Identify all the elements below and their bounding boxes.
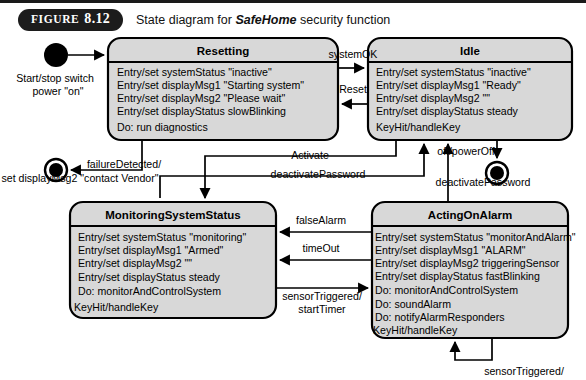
- state-acting-on-alarm-line-2: Entry/set displayMsg2 triggeringSensor: [375, 257, 560, 269]
- label-resetting-to-failure-final-0: failureDetected/: [87, 158, 161, 170]
- label-start-to-resetting-1: power "on": [32, 85, 83, 97]
- label-start-to-resetting-0: Start/stop switch: [16, 72, 94, 84]
- state-acting-on-alarm-title: ActingOnAlarm: [428, 209, 512, 221]
- state-resetting[interactable]: Resetting Entry/set systemStatus "inacti…: [108, 38, 338, 140]
- state-acting-on-alarm[interactable]: ActingOnAlarm Entry/set systemStatus "mo…: [372, 202, 576, 338]
- label-acting-self-loop: sensorTriggered/: [484, 365, 564, 377]
- state-resetting-line-3: Entry/set displayStatus slowBlinking: [117, 105, 286, 117]
- state-idle[interactable]: Idle Entry/set systemStatus "inactive" E…: [368, 38, 572, 140]
- state-acting-on-alarm-line-4: Do: monitorAndControlSystem: [375, 284, 518, 296]
- label-acting-to-monitoring-false-alarm: falseAlarm: [296, 214, 346, 226]
- state-resetting-line-1: Entry/set displayMsg1 "Starting system": [117, 79, 304, 91]
- state-resetting-title: Resetting: [197, 45, 249, 57]
- state-idle-line-4: KeyHit/handleKey: [376, 121, 461, 133]
- state-monitoring-system-status-line-5: KeyHit/handleKey: [74, 301, 159, 313]
- label-acting-to-monitoring-timeout: timeOut: [302, 242, 339, 254]
- state-monitoring-system-status-line-3: Entry/set displayStatus steady: [78, 271, 221, 283]
- state-monitoring-system-status-title: MonitoringSystemStatus: [105, 209, 240, 221]
- state-resetting-line-0: Entry/set systemStatus "inactive": [117, 66, 272, 78]
- state-monitoring-system-status-line-2: Entry/set displayMsg2 "": [78, 257, 192, 269]
- state-acting-on-alarm-line-1: Entry/set displayMsg1 "ALARM": [375, 244, 526, 256]
- figure-container: FIGURE 8.12 State diagram for SafeHome s…: [0, 0, 586, 380]
- state-acting-on-alarm-line-3: Entry/set displayStatus fastBlinking: [375, 270, 540, 282]
- state-acting-on-alarm-line-6: Do: notifyAlarmResponders: [375, 311, 505, 323]
- label-monitoring-to-acting-1: startTimer: [298, 303, 346, 315]
- state-resetting-line-2: Entry/set displayMsg2 "Please wait": [117, 92, 286, 104]
- state-monitoring-system-status[interactable]: MonitoringSystemStatus Entry/set systemS…: [70, 202, 276, 318]
- state-diagram: Resetting Entry/set systemStatus "inacti…: [0, 0, 586, 380]
- state-acting-on-alarm-line-0: Entry/set systemStatus "monitorAndAlarm": [375, 231, 576, 243]
- state-monitoring-system-status-line-1: Entry/set displayMsg1 "Armed": [78, 244, 224, 256]
- label-resetting-to-idle: systemOK: [329, 48, 378, 60]
- start-node-icon: [44, 43, 68, 67]
- state-acting-on-alarm-line-7: KeyHit/handleKey: [373, 324, 458, 336]
- label-monitoring-to-acting-0: sensorTriggered/: [282, 290, 362, 302]
- state-idle-line-2: Entry/set displayMsg2 "": [376, 92, 490, 104]
- edge-acting-self-loop: [455, 338, 492, 360]
- state-acting-on-alarm-line-5: Do: soundAlarm: [375, 298, 451, 310]
- state-monitoring-system-status-line-4: Do: monitorAndControlSystem: [78, 285, 221, 297]
- label-resetting-to-failure-final-1: set displayMsg2 "contact Vendor": [1, 172, 158, 184]
- state-idle-line-0: Entry/set systemStatus "inactive": [376, 66, 531, 78]
- state-monitoring-system-status-line-0: Entry/set systemStatus "monitoring": [78, 231, 246, 243]
- state-resetting-line-4: Do: run diagnostics: [117, 121, 208, 133]
- label-idle-to-monitoring: Activate: [291, 149, 329, 161]
- label-idle-to-resetting: Reset: [339, 83, 367, 95]
- state-idle-line-1: Entry/set displayMsg1 "Ready": [376, 79, 521, 91]
- state-idle-title: Idle: [460, 45, 480, 57]
- label-idle-to-poweroff-final: off/powerOff: [437, 145, 494, 157]
- label-acting-to-idle: deactivatePassword: [436, 176, 531, 188]
- state-idle-line-3: Entry/set displayStatus steady: [376, 105, 519, 117]
- label-monitoring-to-idle: deactivatePassword: [271, 168, 366, 180]
